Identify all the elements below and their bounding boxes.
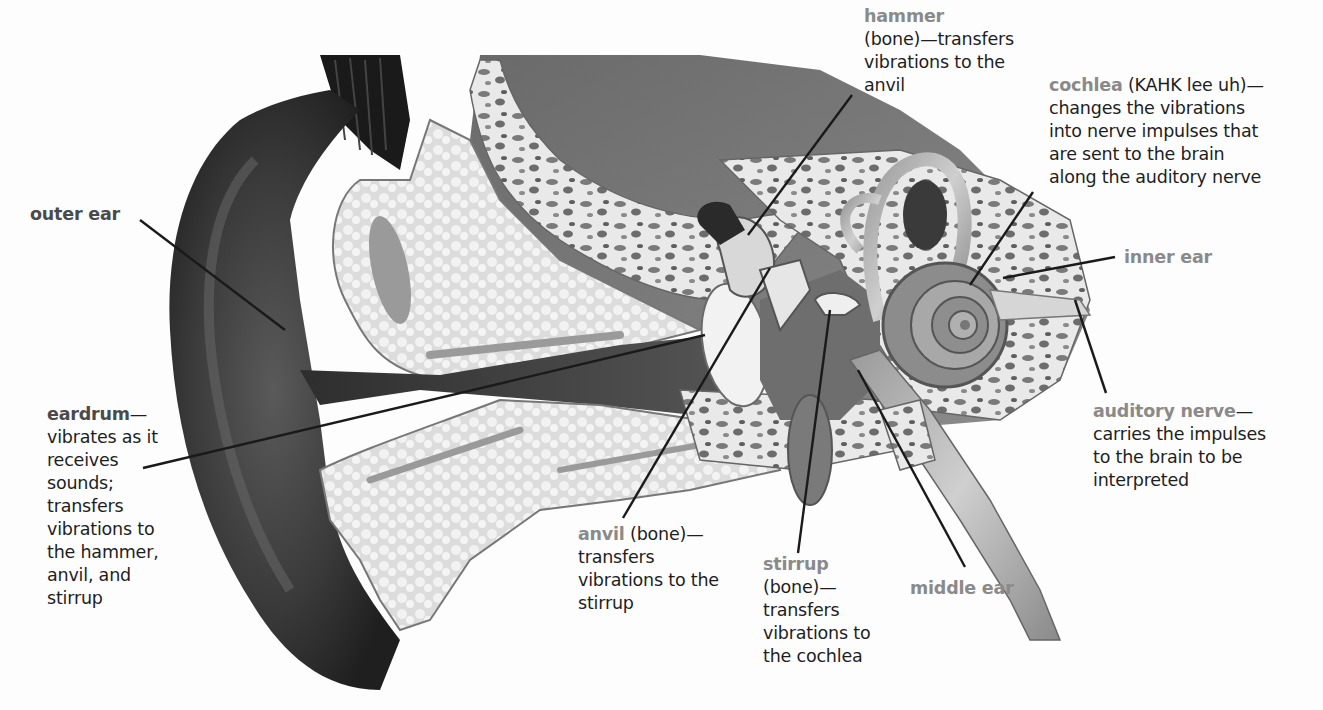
leader-cochlea: [970, 192, 1033, 285]
leader-eardrum: [143, 335, 705, 468]
term-outer-ear: outer ear: [30, 204, 120, 224]
term-hammer: hammer: [864, 6, 944, 26]
leader-hammer: [748, 95, 852, 235]
label-inner-ear: inner ear: [1124, 246, 1212, 269]
term-cochlea: cochlea: [1049, 75, 1123, 95]
label-eardrum: eardrum— vibrates as it receives sounds;…: [47, 403, 159, 610]
term-auditory-nerve: auditory nerve: [1093, 401, 1236, 421]
term-anvil: anvil: [578, 524, 625, 544]
leader-stirrup: [798, 310, 830, 553]
leader-outer-ear: [140, 220, 285, 330]
label-outer-ear: outer ear: [30, 203, 120, 226]
label-stirrup: stirrup (bone)— transfers vibrations to …: [763, 553, 870, 668]
term-stirrup: stirrup: [763, 554, 829, 574]
term-inner-ear: inner ear: [1124, 247, 1212, 267]
leader-inner-ear: [1003, 257, 1115, 278]
term-middle-ear: middle ear: [910, 578, 1014, 598]
leader-anvil: [623, 268, 770, 518]
label-cochlea: cochlea (KAHK lee uh)— changes the vibra…: [1049, 74, 1264, 189]
leader-auditory-nerve: [1075, 300, 1106, 393]
label-auditory-nerve: auditory nerve— carries the impulses to …: [1093, 400, 1266, 492]
label-hammer: hammer (bone)—transfers vibrations to th…: [864, 5, 1014, 97]
leader-middle-ear: [858, 370, 965, 567]
ear-diagram: hammer (bone)—transfers vibrations to th…: [0, 0, 1323, 710]
term-eardrum: eardrum: [47, 404, 130, 424]
label-middle-ear: middle ear: [910, 577, 1014, 600]
label-anvil: anvil (bone)— transfers vibrations to th…: [578, 523, 719, 615]
